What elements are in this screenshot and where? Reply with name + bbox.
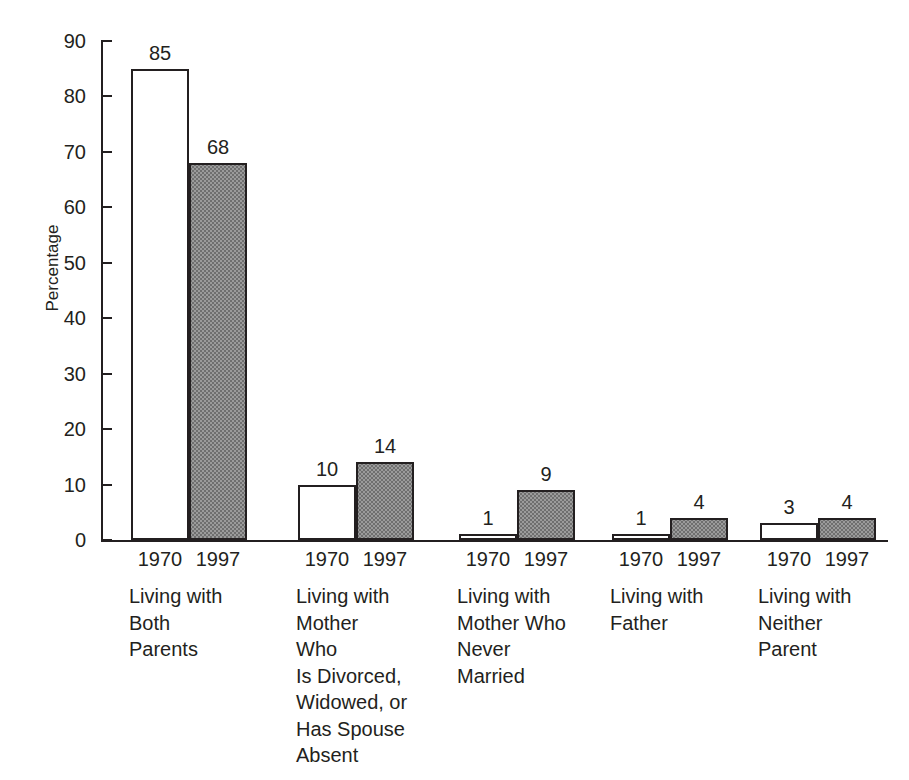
y-tick-label-90: 90 [44,31,86,51]
x-category-label-2: Living with Mother Who Is Divorced, Wido… [296,583,446,769]
bar-value-label: 1 [459,508,517,528]
bar-1997-group-3[interactable] [517,490,575,540]
bar-value-label: 1 [612,508,670,528]
bar-1997-group-4[interactable] [670,518,728,540]
y-tick-label-60: 60 [44,197,86,217]
bar-1997-group-1[interactable] [189,163,247,540]
bar-value-label: 14 [356,436,414,456]
x-axis-line [101,540,888,542]
bar-1970-group-4[interactable] [612,534,670,540]
x-year-label-1997: 1997 [668,549,730,569]
cropped-title-remnant [150,0,710,4]
x-year-label-1970: 1970 [457,549,519,569]
bar-1970-group-1[interactable] [131,69,189,540]
bar-value-label: 9 [517,464,575,484]
bar-value-label: 10 [298,459,356,479]
bar-value-label: 85 [131,43,189,63]
x-year-label-1997: 1997 [187,549,249,569]
x-year-label-1970: 1970 [296,549,358,569]
plot-area: 85681014191434 [101,41,888,540]
y-tick-label-80: 80 [44,86,86,106]
x-year-label-1970: 1970 [758,549,820,569]
y-tick-label-50: 50 [44,253,86,273]
y-tick-label-70: 70 [44,142,86,162]
x-category-label-5: Living with Neither Parent [758,583,908,663]
y-tick-label-10: 10 [44,475,86,495]
x-year-label-1970: 1970 [129,549,191,569]
y-tick-label-30: 30 [44,364,86,384]
bar-1970-group-5[interactable] [760,523,818,540]
x-year-label-1997: 1997 [515,549,577,569]
x-year-label-1970: 1970 [610,549,672,569]
bar-1997-group-2[interactable] [356,462,414,540]
bar-value-label: 3 [760,497,818,517]
bar-value-label: 68 [189,137,247,157]
bar-1970-group-2[interactable] [298,485,356,540]
bar-value-label: 4 [818,492,876,512]
y-tick-label-20: 20 [44,419,86,439]
x-year-label-1997: 1997 [816,549,878,569]
bar-chart: Percentage 9080706050403020100 856810141… [0,0,909,780]
y-tick-label-0: 0 [44,530,86,550]
bar-value-label: 4 [670,492,728,512]
y-tick-label-40: 40 [44,308,86,328]
bar-1970-group-3[interactable] [459,534,517,540]
x-category-label-3: Living with Mother Who Never Married [457,583,607,689]
bar-1997-group-5[interactable] [818,518,876,540]
x-category-label-1: Living with Both Parents [129,583,279,663]
x-category-label-4: Living with Father [610,583,760,636]
x-year-label-1997: 1997 [354,549,416,569]
